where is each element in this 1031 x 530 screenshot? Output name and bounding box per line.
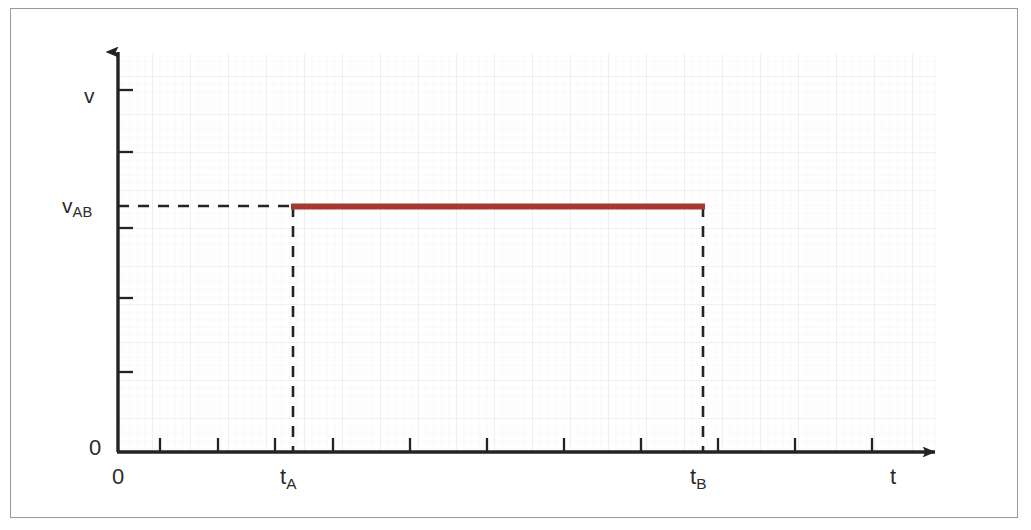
y-value-label-sub: AB: [73, 204, 93, 220]
y-value-label-vab: vAB: [62, 195, 93, 216]
x-axis-label: t: [890, 466, 896, 488]
grid-area: [119, 54, 936, 452]
y-axis-label: v: [84, 85, 95, 106]
figure-root: v vAB 0 0 tA tB t: [0, 0, 1031, 530]
x-tick-label-tb: tB: [690, 466, 707, 488]
y-origin-label: 0: [89, 437, 101, 459]
y-value-label-main: v: [62, 194, 73, 217]
x-tick-label-tb-sub: B: [696, 475, 707, 492]
x-tick-label-ta: tA: [280, 466, 297, 488]
plot-canvas: [0, 0, 1031, 530]
x-origin-label: 0: [112, 466, 124, 488]
x-tick-label-ta-sub: A: [286, 475, 297, 492]
